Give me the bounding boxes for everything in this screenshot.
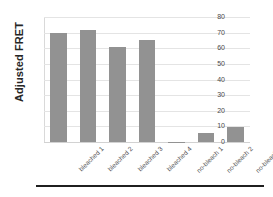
bar (80, 30, 96, 142)
y-tick-label: 80 (199, 13, 225, 20)
y-axis-title: Adjusted FRET (13, 7, 25, 117)
y-tick-label: 30 (199, 91, 225, 98)
y-tick-label: 50 (199, 60, 225, 67)
x-axis-category-labels: bleached 1bleached 2bleached 3bleached 4… (44, 145, 250, 185)
chart-container: Adjusted FRET 01020304050607080 bleached… (0, 0, 273, 197)
x-tick-label: bleached 1 (77, 145, 104, 172)
x-tick-label: bleached 4 (165, 145, 192, 172)
y-tick-label: 70 (199, 29, 225, 36)
x-tick-label: bleached 3 (136, 145, 163, 172)
y-tick-label: 20 (199, 107, 225, 114)
bar (227, 127, 243, 142)
y-tick-label: 10 (199, 122, 225, 129)
bottom-rule (36, 185, 264, 187)
y-tick-label: 0 (199, 138, 225, 145)
bar (139, 40, 155, 142)
x-tick-label: bleached 2 (106, 145, 133, 172)
bar (109, 47, 125, 142)
x-tick-label: no-bleach 2 (225, 145, 254, 174)
y-tick-label: 40 (199, 76, 225, 83)
x-tick-label: no-bleach 3 (254, 145, 273, 174)
x-tick-label: no-bleach 1 (195, 145, 224, 174)
y-tick-label: 60 (199, 44, 225, 51)
bar (50, 33, 66, 142)
